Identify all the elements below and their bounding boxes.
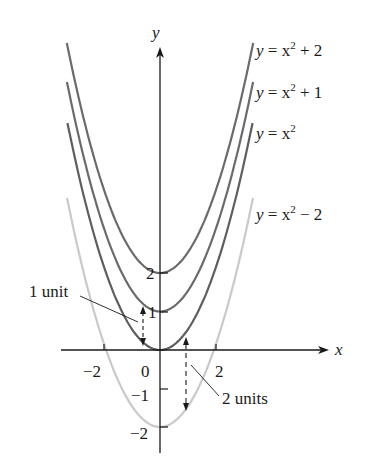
y-tick-label-neg2: −2: [130, 424, 148, 443]
x-tick-label-neg2: −2: [83, 362, 101, 381]
two-units-label: 2 units: [222, 389, 268, 408]
x-axis-label: x: [334, 340, 343, 359]
one-unit-label: 1 unit: [29, 282, 68, 301]
x-tick-label-2: 2: [215, 362, 224, 381]
y-axis-label: y: [150, 23, 160, 42]
label-x2-minus-2: y = x2 − 2: [254, 203, 322, 224]
y-tick-label-neg1: −1: [131, 386, 149, 405]
arrow-up-icon: [140, 306, 146, 314]
label-x2-plus-1: y = x2 + 1: [254, 81, 322, 102]
label-x2: y = x2: [254, 122, 296, 143]
x-tick-label-0: 0: [141, 362, 150, 381]
parabola-shift-diagram: x y −2 0 2 2 1 −1 −2 1 unit 2 units y = …: [0, 0, 371, 458]
one-unit-leader: [80, 296, 138, 322]
label-x2-plus-2: y = x2 + 2: [254, 39, 322, 60]
y-tick-label-1: 1: [148, 303, 157, 322]
arrow-up-icon: [183, 337, 189, 345]
y-tick-label-2: 2: [146, 264, 155, 283]
